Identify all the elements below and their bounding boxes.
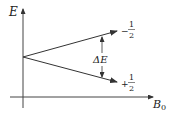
- svg-text:2: 2: [129, 84, 134, 93]
- svg-text:1: 1: [129, 73, 134, 82]
- x-axis-label: B0: [152, 98, 166, 112]
- svg-text:1: 1: [129, 20, 134, 29]
- upper-level-label: − 1 2: [121, 20, 135, 40]
- energy-level-diagram: E B0 ΔE − 1 2 + 1 2: [0, 0, 180, 122]
- delta-e-label: ΔE: [92, 54, 108, 65]
- svg-text:−: −: [121, 26, 129, 36]
- y-axis-label: E: [8, 5, 18, 19]
- lower-level-label: + 1 2: [121, 73, 135, 93]
- svg-text:+: +: [121, 79, 129, 89]
- svg-text:2: 2: [129, 31, 134, 40]
